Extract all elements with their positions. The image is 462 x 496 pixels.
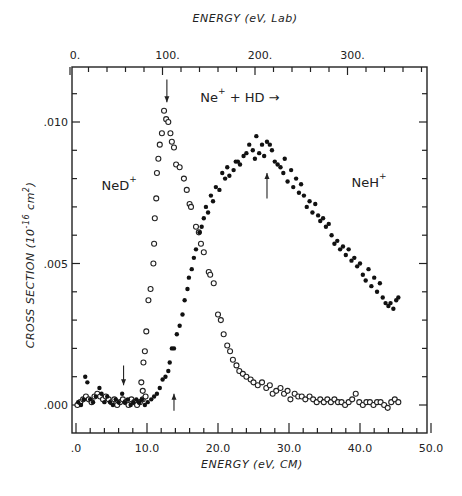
x-tick-label: 10.0 — [135, 442, 160, 455]
annotation-main: NeH — [351, 175, 379, 190]
filled-circle-point — [294, 176, 298, 180]
x-tick-label: 50.0 — [419, 442, 444, 455]
filled-circle-point — [91, 400, 95, 404]
open-circle-point — [140, 388, 145, 393]
filled-circle-point — [185, 287, 189, 291]
filled-circle-point — [316, 213, 320, 217]
annotations: NeD+NeH+Ne+ + HD → — [102, 86, 387, 193]
down-arrow-icon — [121, 365, 126, 385]
filled-circle-point — [85, 380, 89, 384]
filled-circle-point — [363, 278, 367, 282]
up-arrow-icon — [264, 173, 269, 198]
filled-circle-point — [257, 151, 261, 155]
filled-circle-point — [302, 193, 306, 197]
open-circle-point — [221, 332, 226, 337]
filled-circle-point — [120, 391, 124, 395]
filled-circle-point — [375, 290, 379, 294]
open-circle-point — [184, 187, 189, 192]
x-tick-label: 40.0 — [348, 442, 373, 455]
filled-circle-point — [94, 394, 98, 398]
y-tick-label: .005 — [44, 258, 69, 271]
filled-circle-point — [281, 171, 285, 175]
filled-circle-point — [278, 165, 282, 169]
x2-tick-label: 300. — [340, 49, 365, 62]
open-circle-point — [208, 272, 213, 277]
x-tick-label: 20.0 — [206, 442, 231, 455]
filled-circle-point — [268, 142, 272, 146]
filled-circle-point — [310, 210, 314, 214]
x2-axis-title: ENERGY (eV, Lab) — [193, 12, 298, 25]
filled-circle-point — [327, 222, 331, 226]
filled-circle-point — [180, 312, 184, 316]
open-circle-point — [201, 250, 206, 255]
filled-circle-point — [194, 247, 198, 251]
y-axis-title: CROSS SECTION (10-16 cm2) — [22, 182, 37, 349]
annotation-neh: NeH+ — [351, 171, 386, 190]
arrow-head — [171, 394, 176, 400]
x-axis-title: ENERGY (eV, CM) — [201, 458, 303, 471]
filled-circle-point — [262, 154, 266, 158]
open-circle-point — [141, 360, 146, 365]
annotation-rest: + HD → — [226, 90, 280, 105]
open-circle-point — [146, 298, 151, 303]
filled-circle-point — [313, 202, 317, 206]
filled-circle-point — [197, 230, 201, 234]
filled-circle-point — [361, 273, 365, 277]
filled-circle-point — [202, 216, 206, 220]
open-circle-point — [285, 388, 290, 393]
annotation-sup: + — [218, 86, 226, 96]
open-circle-point — [154, 170, 159, 175]
open-circle-point — [234, 363, 239, 368]
open-circle-point — [168, 131, 173, 136]
filled-circle-point — [190, 267, 194, 271]
data-series — [75, 108, 401, 410]
open-circle-point — [198, 241, 203, 246]
filled-circle-point — [111, 403, 115, 407]
filled-circle-point — [260, 142, 264, 146]
open-circle-point — [169, 139, 174, 144]
filled-circle-point — [163, 375, 167, 379]
filled-circle-point — [369, 284, 373, 288]
filled-circle-point — [231, 168, 235, 172]
open-circle-point — [154, 196, 159, 201]
filled-circle-point — [126, 397, 130, 401]
filled-circle-point — [321, 216, 325, 220]
filled-circle-point — [329, 233, 333, 237]
filled-circle-point — [254, 134, 258, 138]
annotation-ne: Ne+ + HD → — [200, 86, 279, 105]
filled-circle-point — [97, 386, 101, 390]
filled-circle-point — [204, 205, 208, 209]
open-circle-point — [171, 145, 176, 150]
filled-circle-point — [247, 142, 251, 146]
filled-circle-point — [225, 165, 229, 169]
annotation-main: NeD — [102, 178, 130, 193]
annotation-main: Ne — [200, 90, 218, 105]
filled-circle-point — [358, 261, 362, 265]
filled-circle-point — [253, 157, 257, 161]
filled-circle-point — [381, 295, 385, 299]
filled-circle-point — [289, 168, 293, 172]
open-circle-point — [193, 224, 198, 229]
filled-circle-point — [155, 391, 159, 395]
filled-circle-point — [227, 174, 231, 178]
filled-circle-point — [105, 394, 109, 398]
filled-circle-point — [158, 386, 162, 390]
filled-circle-point — [116, 400, 120, 404]
filled-circle-point — [299, 182, 303, 186]
filled-circle-point — [217, 188, 221, 192]
x-axis-lab: 0.100.200.300. — [70, 49, 422, 75]
open-circle-point — [228, 349, 233, 354]
open-circle-point — [177, 165, 182, 170]
open-circle-point — [396, 400, 401, 405]
x2-tick-label: 200. — [248, 49, 273, 62]
arrow-head — [264, 173, 269, 179]
filled-circle-point — [182, 298, 186, 302]
x-axis-cm: .010.020.030.040.050.0 — [71, 423, 444, 455]
open-circle-point — [162, 108, 167, 113]
filled-circle-point — [291, 185, 295, 189]
filled-circle-point — [166, 369, 170, 373]
filled-circle-point — [344, 253, 348, 257]
annotation-sup: + — [129, 174, 137, 184]
filled-circle-point — [366, 267, 370, 271]
y-axis-exp: -16 — [22, 214, 31, 229]
